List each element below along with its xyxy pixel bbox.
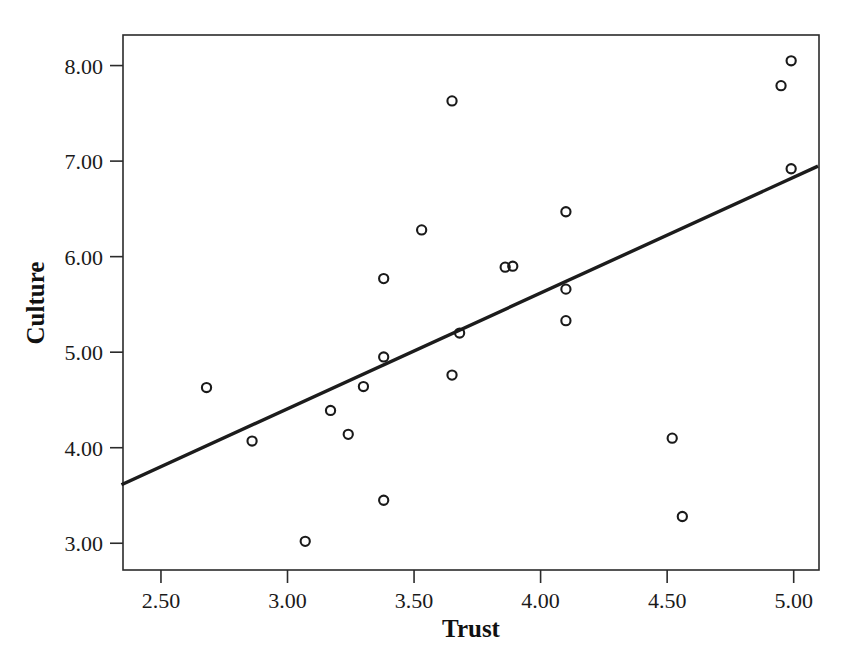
x-axis-title: Trust [442,615,501,642]
plot-canvas: 3.004.005.006.007.008.00 2.503.003.504.0… [0,0,857,662]
y-tick-label: 6.00 [65,245,104,270]
y-tick-label: 4.00 [65,436,104,461]
y-tick-label: 8.00 [65,54,104,79]
x-tick-label: 4.00 [521,588,560,613]
y-tick-label: 7.00 [65,149,104,174]
x-tick-label: 3.00 [268,588,307,613]
x-tick-label: 4.50 [648,588,687,613]
x-tick-label: 2.50 [142,588,181,613]
figure-background [0,0,857,662]
scatter-plot-figure: 3.004.005.006.007.008.00 2.503.003.504.0… [0,0,857,662]
x-tick-label: 5.00 [774,588,813,613]
x-tick-label: 3.50 [395,588,434,613]
y-axis-title: Culture [22,262,49,345]
y-tick-label: 3.00 [65,531,104,556]
y-tick-label: 5.00 [65,340,104,365]
